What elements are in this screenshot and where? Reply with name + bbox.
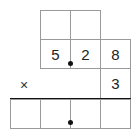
- answer-box-3[interactable]: [70, 99, 101, 129]
- multiplicand-digit-2: 2: [70, 39, 101, 69]
- carry-box-1[interactable]: [40, 10, 71, 40]
- multiplicand-digit-3: 8: [100, 39, 131, 69]
- answer-box-1[interactable]: [10, 99, 41, 129]
- multiplicand-decimal-point: [68, 61, 73, 66]
- multiplicand-digit-1: 5: [40, 39, 71, 69]
- carry-box-2[interactable]: [70, 10, 101, 40]
- multiplier-digit: 3: [100, 68, 131, 99]
- answer-box-2[interactable]: [40, 99, 71, 129]
- multiply-sign: ×: [20, 77, 28, 93]
- answer-box-4[interactable]: [100, 99, 131, 129]
- answer-decimal-point: [68, 120, 73, 125]
